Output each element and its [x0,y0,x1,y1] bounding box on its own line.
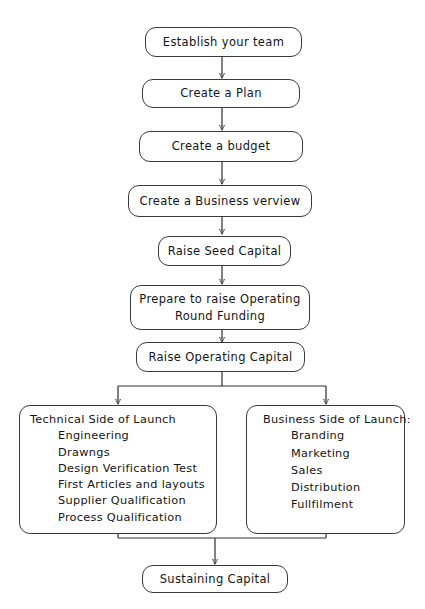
node-label: Sustaining Capital [160,571,271,588]
panel-item-marketing: Marketing [291,448,398,459]
node-label: Raise Operating Capital [148,349,292,366]
panel-item-fulfilment: Fullfilment [291,499,398,510]
node-label-line-1: Prepare to raise Operating [139,291,300,308]
node-establish-team[interactable]: Establish your team [145,27,302,57]
panel-item-design-verification-test: Design Verification Test [58,463,210,474]
panel-item-branding: Branding [291,430,398,441]
panel-item-sales: Sales [291,465,398,476]
panel-item-supplier-qualification: Supplier Qualification [58,495,210,506]
panel-item-process-qualification: Process Qualification [58,512,210,523]
node-label: Create a Plan [180,85,262,102]
panel-technical-side-of-launch[interactable]: Technical Side of Launch Engineering Dra… [19,405,217,534]
flowchart-canvas: Establish your team Create a Plan Create… [0,0,425,609]
node-sustaining-capital[interactable]: Sustaining Capital [142,565,288,593]
node-label: Raise Seed Capital [168,243,282,260]
node-raise-operating-capital[interactable]: Raise Operating Capital [136,342,305,372]
node-label: Create a Business verview [140,193,301,210]
node-create-budget[interactable]: Create a budget [139,131,303,162]
node-label-line-2: Round Funding [175,308,265,325]
node-prepare-operating-round[interactable]: Prepare to raise Operating Round Funding [130,285,310,330]
panel-title: Technical Side of Launch [30,414,210,425]
panel-item-engineering: Engineering [58,430,210,441]
panel-business-side-of-launch[interactable]: Business Side of Launch: Branding Market… [246,405,405,534]
panel-item-distribution: Distribution [291,482,398,493]
panel-title: Business Side of Launch: [263,414,398,425]
panel-item-first-articles-and-layouts: First Articles and layouts [58,479,210,490]
node-business-overview[interactable]: Create a Business verview [128,185,312,217]
node-raise-seed-capital[interactable]: Raise Seed Capital [158,236,291,266]
node-label: Create a budget [172,138,271,155]
panel-item-drawings: Drawngs [58,447,210,458]
node-label: Establish your team [163,34,284,51]
node-create-plan[interactable]: Create a Plan [142,79,300,108]
